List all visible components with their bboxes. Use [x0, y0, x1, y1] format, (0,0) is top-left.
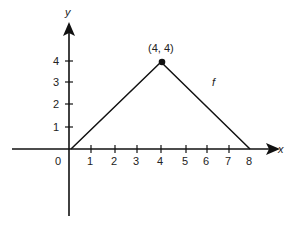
x-tick-label: 6	[203, 155, 209, 167]
x-axis-label: x	[277, 143, 284, 155]
chart-figure: 0 1 2 3 4 5 6 7 8 4 3 2 1 x y (4, 4) f	[0, 0, 292, 233]
peak-point-marker	[159, 59, 166, 66]
y-axis-label: y	[64, 6, 72, 18]
y-tick-label: 1	[53, 121, 59, 133]
peak-point-label: (4, 4)	[148, 42, 174, 54]
x-tick-label: 5	[182, 155, 188, 167]
x-tick-label: 4	[157, 155, 163, 167]
x-tick-label: 1	[87, 155, 93, 167]
x-tick-label: 8	[246, 155, 252, 167]
x-tick-label: 3	[133, 155, 139, 167]
x-tick-label: 2	[111, 155, 117, 167]
y-tick-label: 4	[53, 55, 59, 67]
function-label: f	[212, 76, 216, 88]
y-tick-label: 3	[53, 76, 59, 88]
origin-label: 0	[55, 155, 61, 167]
y-tick-label: 2	[53, 98, 59, 110]
x-tick-label: 7	[225, 155, 231, 167]
plot-area: 0 1 2 3 4 5 6 7 8 4 3 2 1 x y (4, 4) f	[0, 0, 292, 233]
function-f-line	[71, 62, 250, 149]
